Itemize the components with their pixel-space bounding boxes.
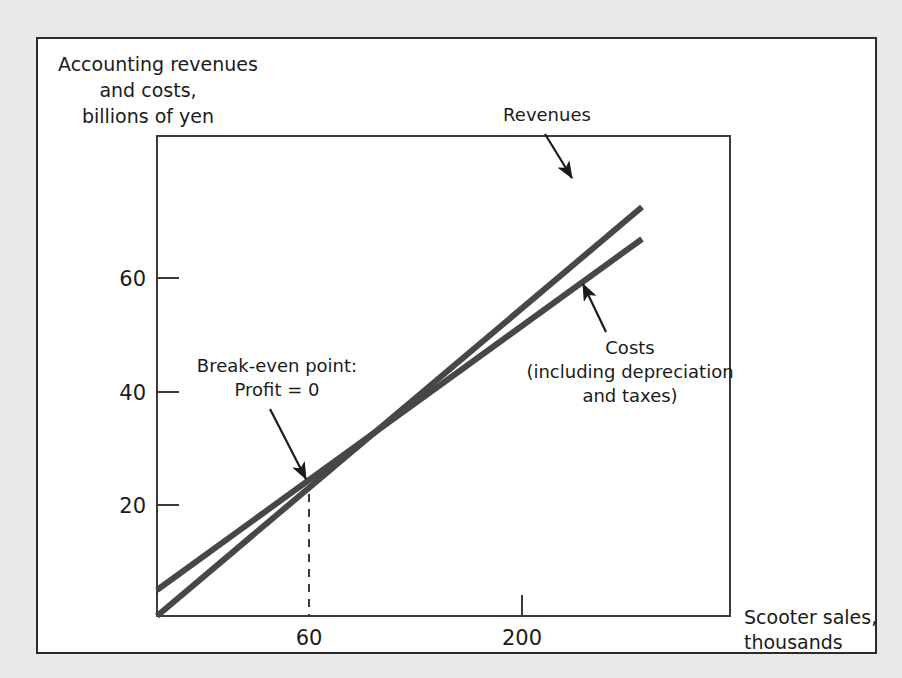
annotation-costs-sublabel-line-1: (including depreciation [526,361,733,382]
figure-panel: Accounting revenues and costs, billions … [36,37,877,654]
annotation-costs-label: Costs [605,337,654,358]
y-tick-label-60: 60 [119,267,146,291]
annotation-costs-arrow [583,284,606,332]
annotation-breakeven-line-2: Profit = 0 [235,379,320,400]
annotation-breakeven-line-1: Break-even point: [197,355,357,376]
y-axis-title-line-2: and costs, [99,79,196,101]
y-tick-label-20: 20 [119,494,146,518]
x-tick-label-200: 200 [502,626,542,650]
costs-line [157,239,642,590]
annotation-revenues-label: Revenues [503,104,591,125]
x-axis-title-line-2: thousands [744,631,843,653]
y-tick-label-40: 40 [119,381,146,405]
annotation-revenues-arrow [545,134,572,178]
y-axis-title-line-1: Accounting revenues [58,53,258,75]
annotation-costs-sublabel-line-2: and taxes) [582,385,677,406]
x-tick-label-60: 60 [296,626,323,650]
y-axis-title-line-3: billions of yen [82,105,214,127]
break-even-chart: Accounting revenues and costs, billions … [38,39,879,656]
annotation-breakeven-arrow [270,409,306,479]
x-axis-title-line-1: Scooter sales, [744,606,877,628]
